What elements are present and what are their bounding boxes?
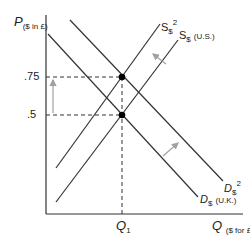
quantity-tick-q1: Q1 bbox=[116, 219, 131, 235]
x-axis-label: Q ($ for £) bbox=[212, 219, 250, 235]
demand-curve-new bbox=[70, 20, 223, 181]
equilibrium-point-new bbox=[119, 74, 126, 81]
demand-original-label: D$ (U.K.) bbox=[200, 194, 236, 208]
supply-new-label: S$2 bbox=[161, 19, 177, 36]
demand-shift-arrow bbox=[163, 143, 178, 156]
price-tick-075: .75 bbox=[24, 71, 39, 82]
supply-original-label: S$ (U.S.) bbox=[179, 30, 215, 44]
y-axis-label: P($ in £) bbox=[14, 15, 48, 31]
supply-curve-original bbox=[56, 40, 178, 202]
equilibrium-point-original bbox=[119, 112, 126, 119]
price-tick-05: .5 bbox=[27, 109, 36, 120]
supply-curve-new bbox=[56, 24, 160, 168]
